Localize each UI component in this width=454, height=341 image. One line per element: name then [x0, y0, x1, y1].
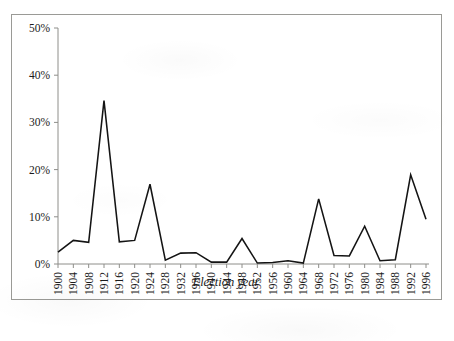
x-axis-tick-label: 1900 [52, 272, 64, 295]
x-axis-tick-label: 1984 [374, 272, 386, 295]
y-axis-tick-label: 10% [29, 211, 51, 223]
x-axis-tick-label: 1960 [282, 272, 294, 295]
x-axis-tick-label: 1920 [129, 272, 141, 295]
data-line-third-party-share [58, 101, 426, 263]
y-axis-tick-label: 30% [29, 116, 51, 128]
x-axis-title: Election year [192, 275, 260, 289]
chart-figure-frame: 0%10%20%30%40%50% 1900190419081912191619… [11, 14, 442, 300]
y-axis: 0%10%20%30%40%50% [29, 22, 58, 270]
x-axis-tick-label: 1924 [144, 272, 156, 295]
y-axis-tick-label: 20% [29, 164, 51, 176]
y-axis-tick-label: 50% [29, 22, 51, 34]
x-axis-tick-label: 1904 [67, 272, 79, 295]
data-series-group [58, 101, 426, 263]
x-axis-tick-label: 1956 [267, 272, 279, 295]
x-axis-tick-label: 1980 [359, 272, 371, 295]
x-axis-tick-label: 1968 [313, 272, 325, 295]
x-axis-tick-label: 1992 [405, 272, 417, 295]
x-axis-tick-label: 1976 [343, 272, 355, 295]
y-axis-tick-label: 0% [35, 258, 51, 270]
x-axis-tick-label: 1912 [98, 272, 110, 295]
x-axis-tick-label: 1972 [328, 272, 340, 295]
x-axis-tick-label: 1964 [297, 272, 309, 295]
x-axis-tick-label: 1928 [159, 272, 171, 295]
y-axis-tick-label: 40% [29, 69, 51, 81]
x-axis-tick-label: 1996 [420, 272, 432, 295]
x-axis-tick-label: 1932 [175, 272, 187, 295]
x-axis-tick-label: 1908 [83, 272, 95, 295]
x-axis-tick-label: 1988 [389, 272, 401, 295]
x-axis-tick-label: 1916 [113, 272, 125, 295]
line-chart: 0%10%20%30%40%50% 1900190419081912191619… [12, 15, 441, 299]
